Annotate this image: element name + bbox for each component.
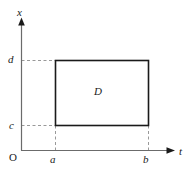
t-axis-tick-label-a: a — [50, 154, 56, 165]
right-arrow-icon — [167, 147, 176, 154]
figure-canvas: x d c O a b t D — [0, 0, 194, 175]
t-axis-tick-label-b: b — [143, 154, 149, 165]
origin-label: O — [9, 152, 17, 163]
up-arrow-icon — [18, 18, 25, 26]
guide-lines — [22, 61, 149, 151]
x-axis-tick-label-c: c — [9, 120, 14, 131]
t-axis-name-label: t — [179, 146, 182, 157]
x-axis — [18, 18, 25, 151]
region-label-d: D — [94, 86, 102, 97]
x-axis-name-label: x — [17, 7, 22, 18]
region-rectangle — [56, 61, 149, 126]
x-axis-tick-label-d: d — [8, 54, 14, 65]
t-axis — [21, 147, 175, 154]
